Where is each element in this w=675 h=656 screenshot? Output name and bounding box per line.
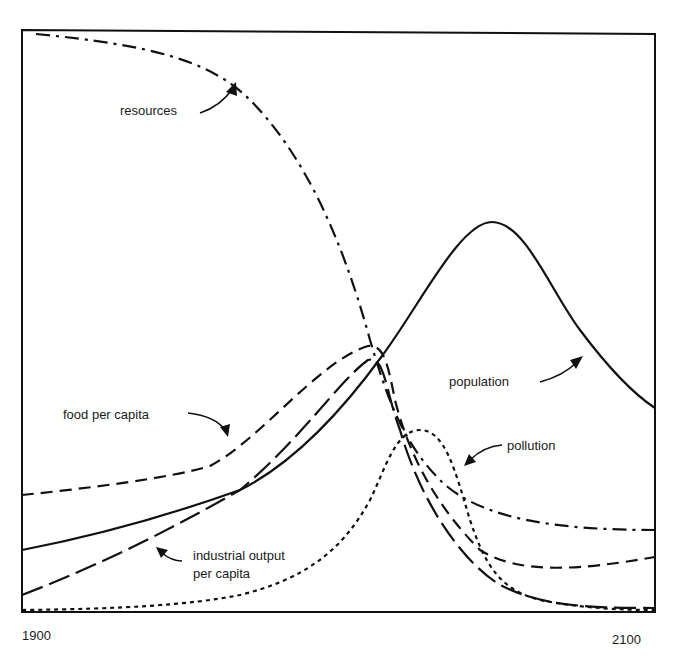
- chart-canvas: [0, 0, 675, 656]
- industrial-output-label-line1: industrial output: [193, 548, 285, 564]
- pollution-arrow-icon: [470, 445, 502, 460]
- food-arrow-icon: [188, 413, 225, 430]
- x-tick-1900: 1900: [22, 628, 51, 643]
- industrial-arrow-icon: [162, 553, 182, 561]
- food-per-capita-curve: [22, 346, 655, 568]
- food-per-capita-label: food per capita: [63, 407, 149, 423]
- resources-label: resources: [120, 103, 177, 119]
- population-label: population: [449, 374, 509, 390]
- pollution-curve: [22, 430, 655, 610]
- population-arrow-icon: [540, 362, 577, 382]
- industrial-output-label-line2: per capita: [193, 566, 250, 582]
- pollution-label: pollution: [507, 438, 555, 454]
- x-tick-2100: 2100: [612, 632, 641, 647]
- population-curve: [22, 222, 655, 550]
